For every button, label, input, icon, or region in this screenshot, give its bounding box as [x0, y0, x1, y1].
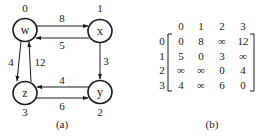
node-label-w: w	[21, 23, 30, 37]
edge-w-x: 8	[36, 12, 88, 26]
matrix-row-3: 4 ∞ 6 0	[178, 79, 246, 91]
matrix-row-0: 0 8 ∞ 12	[178, 35, 248, 47]
node-label-x: x	[97, 24, 103, 38]
row-header-2: 2	[159, 64, 165, 76]
matrix-cell: 0	[240, 79, 246, 91]
graph-panel: 8 5 3 4 6 4 12 w 0	[8, 2, 112, 131]
matrix-cell: 3	[219, 50, 225, 62]
node-label-y: y	[97, 85, 103, 99]
right-bracket	[250, 34, 254, 91]
row-header-0: 0	[159, 35, 165, 47]
edge-z-y: 6	[36, 98, 88, 112]
figure-canvas: 8 5 3 4 6 4 12 w 0	[0, 0, 263, 137]
matrix-row-headers: 0 1 2 3	[159, 35, 165, 91]
matrix-panel: 0 1 2 3 0 1 2 3 0 8 ∞ 12 5 0 3 ∞ ∞	[159, 20, 254, 131]
matrix-cell: 0	[219, 64, 225, 76]
matrix-row-1: 5 0 3 ∞	[178, 50, 247, 62]
edge-weight-z-y: 6	[59, 100, 65, 112]
edge-weight-w-z: 4	[8, 56, 14, 68]
matrix-cell: 0	[198, 50, 204, 62]
matrix-cell: ∞	[197, 79, 205, 91]
col-header-0: 0	[178, 20, 184, 32]
col-header-2: 2	[219, 20, 225, 32]
node-index-y: 2	[97, 106, 103, 118]
matrix-col-headers: 0 1 2 3	[178, 20, 246, 32]
node-label-z: z	[22, 86, 27, 100]
left-bracket	[168, 34, 172, 91]
matrix-cell: ∞	[218, 35, 226, 47]
node-w: w 0	[13, 2, 37, 42]
matrix-cell: 6	[219, 79, 225, 91]
matrix-cell: ∞	[239, 50, 247, 62]
matrix-cell: ∞	[177, 64, 185, 76]
edge-weight-w-x: 8	[59, 12, 65, 24]
row-header-1: 1	[159, 50, 165, 62]
node-index-x: 1	[97, 2, 103, 14]
col-header-1: 1	[198, 20, 204, 32]
edge-weight-x-w: 5	[59, 39, 65, 51]
edge-weight-x-y: 3	[103, 55, 109, 67]
node-index-w: 0	[22, 2, 28, 14]
matrix-cell: 4	[240, 64, 246, 76]
caption-b: (b)	[206, 118, 219, 131]
col-header-3: 3	[240, 20, 246, 32]
node-y: y 2	[88, 81, 112, 119]
row-header-3: 3	[159, 79, 165, 91]
matrix-cell: 12	[238, 35, 249, 47]
edge-weight-z-w: 12	[35, 56, 46, 68]
node-z: z 3	[13, 82, 37, 119]
edge-x-w: 5	[36, 38, 89, 51]
edge-weight-y-z: 4	[59, 74, 65, 86]
matrix-row-2: ∞ ∞ 0 4	[177, 64, 246, 76]
matrix-cell: 5	[178, 50, 184, 62]
edge-z-w: 12	[29, 42, 46, 82]
matrix-cell: 0	[178, 35, 184, 47]
matrix-cell: 4	[178, 79, 184, 91]
node-index-z: 3	[22, 106, 28, 118]
edge-y-z: 4	[37, 74, 89, 87]
node-x: x 1	[88, 2, 112, 43]
edge-x-y: 3	[100, 43, 109, 79]
edge-w-z: 4	[8, 41, 21, 81]
caption-a: (a)	[56, 118, 69, 131]
matrix-cell: ∞	[197, 64, 205, 76]
matrix-cell: 8	[198, 35, 204, 47]
